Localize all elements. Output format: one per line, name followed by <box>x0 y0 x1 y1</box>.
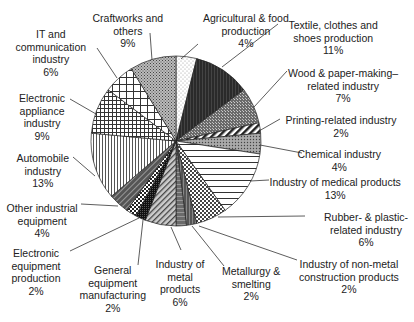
slice-label-line: Electronic <box>19 92 65 105</box>
slice-label: Industry of medical products13% <box>270 176 401 201</box>
leader-line <box>250 180 269 181</box>
slice-label: Electronicapplianceindustry9% <box>19 92 65 142</box>
slice-label-line: Automobile <box>17 152 70 165</box>
leader-line <box>70 218 139 251</box>
slice-percent: 6% <box>16 66 87 79</box>
slice-label-line: Other industrial <box>7 202 78 215</box>
slice-label-line: Craftworks and <box>93 12 164 25</box>
slice-label-line: manufacturing <box>80 289 147 302</box>
slice-label: Agricultural & foodproduction4% <box>203 12 289 50</box>
slice-label-line: communication <box>16 41 87 54</box>
slice-label-line: Printing-related industry <box>286 114 397 127</box>
leader-line <box>70 99 96 114</box>
slice-label-line: Electronic <box>12 247 61 260</box>
slice-percent: 13% <box>17 177 70 190</box>
slice-label-line: Chemical industry <box>298 148 381 161</box>
leader-line <box>97 48 117 78</box>
slice-percent: 2% <box>80 302 147 315</box>
slice-label-line: industry <box>16 53 87 66</box>
slice-label-line: Textile, clothes and <box>289 19 378 32</box>
slice-label: Wood & paper-making–related industry7% <box>288 67 398 105</box>
slice-label-line: smelting <box>222 278 280 291</box>
leader-line <box>218 216 305 217</box>
slice-label-line: IT and <box>16 28 87 41</box>
slice-label: Textile, clothes andshoes production11% <box>289 19 378 57</box>
slice-percent: 2% <box>286 127 397 140</box>
slice-label-line: equipment <box>7 215 78 228</box>
slice-percent: 2% <box>12 285 61 298</box>
slice-percent: 7% <box>288 92 398 105</box>
slice-label: Automobileindustry13% <box>17 152 70 190</box>
slice-percent: 2% <box>222 290 280 303</box>
slice-label-line: equipment <box>12 260 61 273</box>
slice-label-line: production <box>12 272 61 285</box>
slice-percent: 9% <box>93 37 164 50</box>
leader-line <box>259 119 280 131</box>
pie-slices <box>91 56 261 226</box>
slice-label-line: Industry of medical products <box>270 176 401 189</box>
slice-percent: 11% <box>289 44 378 57</box>
slice-label-line: products <box>156 283 205 296</box>
slice-label-line: related industry <box>288 80 398 93</box>
slice-label-line: shoes production <box>289 32 378 45</box>
leader-line <box>171 227 181 250</box>
leader-line <box>81 204 118 206</box>
slice-label: Other industrialequipment4% <box>7 202 78 240</box>
slice-percent: 4% <box>298 161 381 174</box>
slice-percent: 9% <box>19 130 65 143</box>
slice-percent: 13% <box>270 189 401 202</box>
slice-label-line: metal <box>156 271 205 284</box>
slice-label: Printing-related industry2% <box>286 114 397 139</box>
slice-percent: 6% <box>156 296 205 309</box>
slice-label-line: Metallurgy & <box>222 265 280 278</box>
slice-label: Industry ofmetalproducts6% <box>156 258 205 308</box>
leader-line <box>199 226 297 260</box>
slice-label: Electronicequipmentproduction2% <box>12 247 61 297</box>
leader-line <box>260 145 302 153</box>
slice-percent: 4% <box>7 227 78 240</box>
slice-label: Chemical industry4% <box>298 148 381 173</box>
slice-label-line: others <box>93 25 164 38</box>
slice-percent: 2% <box>299 283 399 296</box>
slice-label-line: equipment <box>80 277 147 290</box>
slice-label-line: industry <box>19 117 65 130</box>
slice-label-line: Rubber- & plastic- <box>324 211 408 224</box>
slice-label-line: industry <box>17 165 70 178</box>
slice-label-line: related industry <box>324 224 408 237</box>
slice-label: Craftworks andothers9% <box>93 12 164 50</box>
slice-label-line: General <box>80 264 147 277</box>
slice-label-line: Wood & paper-making– <box>288 67 398 80</box>
leader-line <box>73 157 95 176</box>
slice-label-line: Industry of <box>156 258 205 271</box>
slice-percent: 6% <box>324 236 408 249</box>
slice-label: Rubber- & plastic-related industry6% <box>324 211 408 249</box>
slice-label: Industry of non-metalconstruction produc… <box>299 258 399 296</box>
leader-line <box>254 71 287 107</box>
leader-line <box>138 220 143 265</box>
slice-label-line: appliance <box>19 105 65 118</box>
slice-label-line: construction products <box>299 271 399 284</box>
slice-label: Metallurgy &smelting2% <box>222 265 280 303</box>
slice-percent: 4% <box>203 37 289 50</box>
slice-label: Generalequipmentmanufacturing2% <box>80 264 147 314</box>
slice-label: IT andcommunicationindustry6% <box>16 28 87 78</box>
slice-label-line: Agricultural & food <box>203 12 289 25</box>
slice-label-line: Industry of non-metal <box>299 258 399 271</box>
slice-label-line: production <box>203 25 289 38</box>
